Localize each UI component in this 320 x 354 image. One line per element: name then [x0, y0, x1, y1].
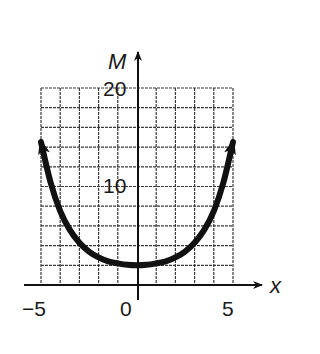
x-tick-neg5: −5	[22, 298, 46, 319]
x-tick-0: 0	[120, 298, 132, 319]
y-tick-20: 20	[103, 78, 126, 99]
y-tick-10: 10	[103, 175, 126, 196]
x-tick-5: 5	[222, 298, 234, 319]
y-axis-label: M	[108, 51, 126, 73]
x-axis-label: x	[270, 275, 281, 297]
